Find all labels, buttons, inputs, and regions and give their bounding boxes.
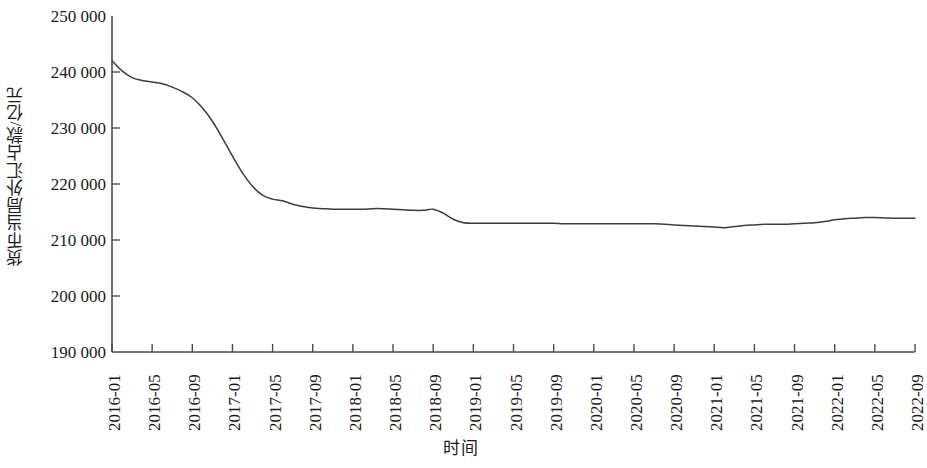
x-axis-tick-label-text: 2016-05 [146, 374, 163, 431]
x-axis-tick-label-text: 2022-05 [869, 374, 886, 431]
x-axis-tick-label-text: 2020-01 [588, 374, 605, 431]
x-axis-tick-label-text: 2017-05 [267, 374, 284, 431]
x-axis-title-text: 时间 [443, 439, 479, 458]
x-axis-title: 时间 [0, 440, 922, 457]
x-axis-tick-label-text: 2017-01 [226, 374, 243, 431]
x-axis-tick-label-text: 2020-09 [668, 374, 685, 431]
x-axis-tick-label-text: 2018-05 [387, 374, 404, 431]
x-axis-tick-label-text: 2021-05 [748, 374, 765, 431]
x-axis-tick-label-text: 2018-01 [347, 374, 364, 431]
x-axis-tick-label-text: 2021-01 [708, 374, 725, 431]
x-axis-tick-label-text: 2021-09 [789, 374, 806, 431]
x-axis-tick-label-text: 2018-09 [427, 374, 444, 431]
x-axis-tick-label-text: 2019-09 [548, 374, 565, 431]
x-axis-tick-label-text: 2016-01 [106, 374, 123, 431]
x-axis-tick-label-text: 2019-05 [508, 374, 525, 431]
x-axis-tick-label-text: 2022-01 [829, 374, 846, 431]
x-axis-tick-label-text: 2022-09 [909, 374, 926, 431]
x-axis-tick-label-text: 2016-09 [186, 374, 203, 431]
x-axis-tick-label-text: 2020-05 [628, 374, 645, 431]
x-axis-tick-label-text: 2019-01 [467, 374, 484, 431]
x-axis-tick-label-text: 2017-09 [307, 374, 324, 431]
